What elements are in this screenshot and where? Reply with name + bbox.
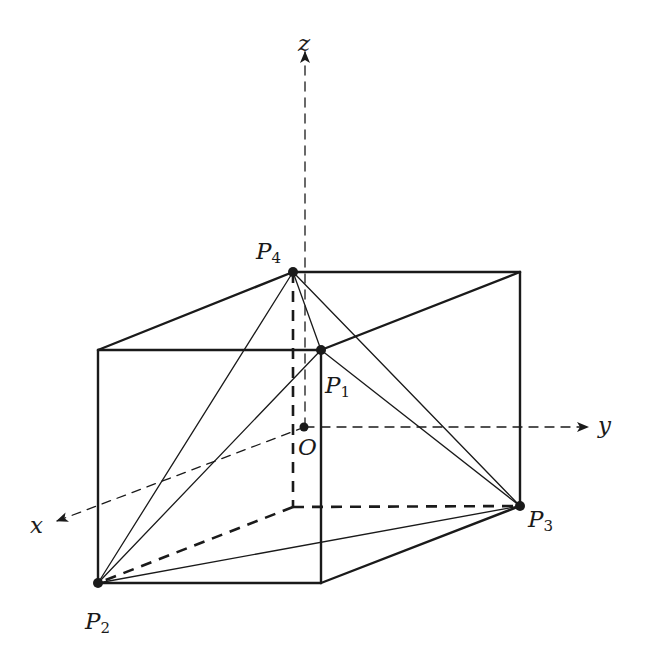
- edge-right-top: [321, 272, 520, 350]
- point-origin: [300, 423, 309, 432]
- axis-label-y: y: [598, 414, 611, 437]
- point-label-p3: P3: [528, 508, 553, 531]
- point-p2: [93, 578, 103, 588]
- axis-label-x: x: [30, 514, 43, 537]
- point-p4: [288, 267, 298, 277]
- edge-left-top: [98, 272, 293, 350]
- edge-p4-p1: [293, 272, 321, 350]
- point-p3: [515, 501, 525, 511]
- point-label-p4: P4: [256, 240, 281, 263]
- edge-right-bottom: [321, 506, 520, 583]
- axis-label-z: z: [298, 32, 310, 55]
- point-p1: [316, 345, 326, 355]
- coordinate-axes: [57, 52, 588, 521]
- origin-label: O: [298, 436, 317, 459]
- hidden-edge-left-bottom: [98, 507, 293, 583]
- point-label-p2: P2: [85, 610, 110, 633]
- tetrahedron-box-diagram: [0, 0, 651, 665]
- edge-p1-p3: [321, 350, 520, 506]
- point-label-p1: P1: [325, 374, 350, 397]
- edge-p4-p2: [98, 272, 293, 583]
- hidden-edge-back-bottom: [293, 506, 520, 507]
- x-axis: [57, 427, 305, 521]
